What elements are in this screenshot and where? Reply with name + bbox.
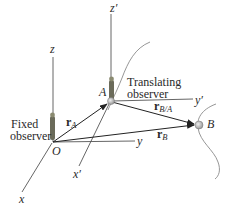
fixed-z-label: z xyxy=(49,42,55,56)
moving-x-axis xyxy=(79,102,110,166)
relative-motion-diagram: z x y O z′ x′ y′ A B Fixed observer Tran… xyxy=(0,0,230,208)
vector-r-ba-label: rB/A xyxy=(154,99,173,114)
fixed-y-label: y xyxy=(136,134,143,148)
particle-b xyxy=(195,121,203,129)
vector-r-ba xyxy=(112,102,194,124)
moving-z-label: z′ xyxy=(109,1,118,15)
vector-r-a-label: rA xyxy=(66,115,77,130)
moving-x-label: x′ xyxy=(72,167,81,181)
fixed-x-label: x xyxy=(18,192,25,206)
vector-r-b-label: rB xyxy=(157,127,168,142)
particle-a xyxy=(108,98,115,105)
translating-observer-figure xyxy=(109,77,114,100)
fixed-y-axis xyxy=(53,141,135,142)
point-b-label: B xyxy=(207,117,215,131)
origin-label: O xyxy=(52,144,61,158)
translating-observer-label-2: observer xyxy=(127,87,168,101)
fixed-observer-label-2: observer xyxy=(10,129,51,143)
point-a-label: A xyxy=(98,85,107,99)
moving-y-label: y′ xyxy=(194,93,203,107)
fixed-x-axis xyxy=(22,143,52,192)
path-curve-b xyxy=(198,104,220,179)
